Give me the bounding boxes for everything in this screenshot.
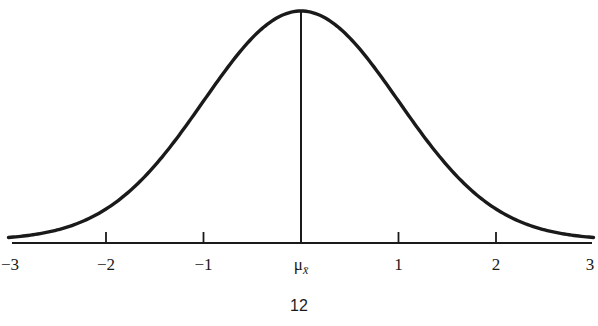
mean-label: μx̄ (294, 255, 309, 277)
x-tick-label: 3 (586, 255, 595, 274)
mu-symbol: μ (294, 255, 303, 274)
x-tick-label: 1 (394, 255, 403, 274)
x-tick-label: 2 (492, 255, 501, 274)
x-bar-subscript: x̄ (302, 263, 309, 277)
x-tick-label: −2 (97, 255, 115, 274)
normal-curve-chart: −3−2−1123 μx̄ (0, 0, 598, 326)
x-tick-label: −1 (194, 255, 212, 274)
page-number: 12 (0, 297, 598, 315)
x-tick-label: −3 (1, 255, 19, 274)
